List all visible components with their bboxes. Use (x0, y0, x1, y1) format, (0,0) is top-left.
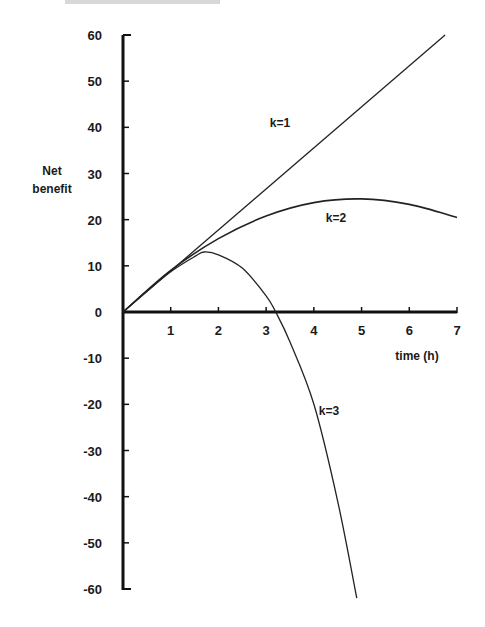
x-tick-label: 7 (453, 323, 460, 338)
y-tick-label: -40 (83, 490, 102, 505)
y-tick-label: -60 (83, 582, 102, 597)
series-label-k2: k=2 (326, 211, 347, 225)
x-tick-label: 4 (310, 323, 318, 338)
x-tick-label: 3 (263, 323, 270, 338)
y-tick-label: -50 (83, 536, 102, 551)
series-line-k3 (123, 252, 357, 598)
x-tick-label: 1 (167, 323, 174, 338)
y-tick-label: -20 (83, 397, 102, 412)
series-line-k2 (123, 199, 457, 312)
net-benefit-chart: 6050403020100-10-20-30-40-50-60 1234567 … (0, 0, 485, 627)
x-tick-label: 5 (358, 323, 365, 338)
y-axis-title-line1: Net (42, 164, 61, 178)
y-tick-label: 10 (88, 259, 102, 274)
series-label-k1: k=1 (270, 116, 291, 130)
y-tick-label: 30 (88, 167, 102, 182)
y-tick-label: 50 (88, 74, 102, 89)
series-label-k3: k=3 (319, 404, 340, 418)
y-tick-label: -30 (83, 444, 102, 459)
y-tick-label: 0 (95, 305, 102, 320)
y-tick-label: -10 (83, 351, 102, 366)
x-axis-title: time (h) (395, 349, 438, 363)
y-tick-label: 40 (88, 120, 102, 135)
x-tick-label: 6 (406, 323, 413, 338)
axes: 6050403020100-10-20-30-40-50-60 1234567 (83, 28, 460, 597)
y-tick-label: 20 (88, 213, 102, 228)
y-tick-label: 60 (88, 28, 102, 43)
x-tick-label: 2 (215, 323, 222, 338)
y-axis-title-line2: benefit (32, 182, 71, 196)
y-axis-title: Net benefit (32, 164, 71, 196)
